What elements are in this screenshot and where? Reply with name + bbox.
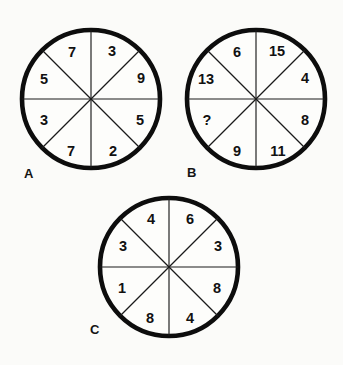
sector-value: 3	[119, 238, 127, 254]
sector-value: 8	[213, 280, 221, 296]
sector-value: 8	[146, 310, 154, 326]
sector-value: 3	[108, 43, 116, 59]
sector-dividers-c	[100, 198, 238, 336]
sector-value: 11	[270, 143, 285, 159]
sector-value: 6	[186, 211, 194, 227]
sector-value: 7	[68, 44, 76, 60]
sector-value: 8	[301, 112, 309, 128]
sector-value: 4	[147, 211, 155, 227]
sector-value: 15	[269, 43, 285, 59]
sector-value: 13	[198, 71, 214, 87]
puzzle-figure: 7 5 3 7 2 5 9 3 A 6 13 ? 9 11 8 4 15 B	[0, 0, 343, 365]
circle-label-a: A	[24, 166, 34, 181]
sector-value: 3	[214, 238, 222, 254]
circle-label-c: C	[90, 322, 100, 337]
sector-value: 6	[233, 44, 241, 60]
sector-value-unknown: ?	[203, 112, 212, 128]
sector-value: 2	[109, 143, 117, 159]
sector-dividers-b	[187, 30, 325, 168]
sector-dividers-a	[22, 30, 160, 168]
sector-value: 4	[301, 70, 309, 86]
circle-label-b: B	[187, 165, 196, 180]
sector-value: 9	[233, 143, 241, 159]
sector-value: 5	[136, 112, 144, 128]
sector-value: 1	[118, 280, 126, 296]
sector-value: 7	[67, 143, 75, 159]
sector-value: 3	[40, 112, 48, 128]
sector-value: 5	[40, 71, 48, 87]
sector-value: 4	[186, 310, 194, 326]
sector-value: 9	[137, 70, 145, 86]
